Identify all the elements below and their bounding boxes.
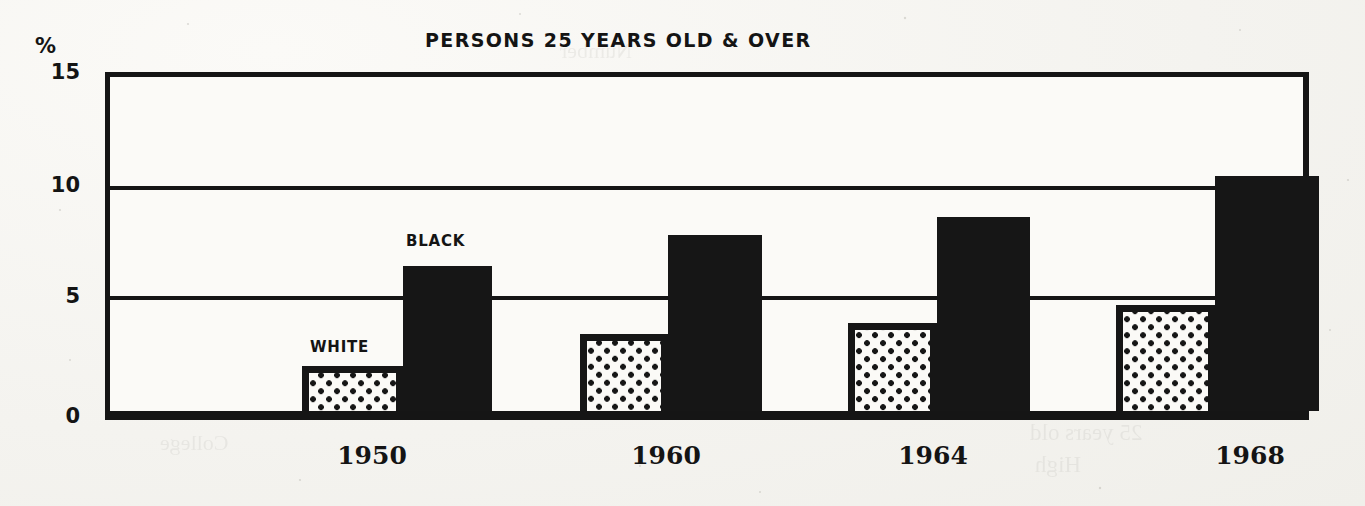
chart-figure: PERSONS 25 YEARS OLD & OVER % 15 10 5 0 …: [0, 0, 1365, 506]
y-tick-10: 10: [18, 173, 80, 197]
bar-black-1964: [937, 217, 1030, 411]
x-tick-1960: 1960: [606, 441, 726, 470]
x-tick-1964: 1964: [873, 441, 993, 470]
x-tick-1950: 1950: [312, 441, 432, 470]
bar-white-1960: [580, 334, 668, 411]
bar-black-1968: [1215, 176, 1319, 411]
bar-white-1950: [302, 366, 403, 411]
series-label-black: BLACK: [406, 232, 465, 250]
y-tick-0: 0: [18, 404, 80, 428]
y-axis-unit-label: %: [35, 34, 56, 58]
gridline-10: [105, 186, 1309, 190]
bar-white-1964: [848, 323, 937, 411]
bar-white-1968: [1116, 305, 1215, 411]
y-tick-15: 15: [18, 60, 80, 84]
x-tick-1968: 1968: [1190, 441, 1310, 470]
chart-title: PERSONS 25 YEARS OLD & OVER: [425, 29, 812, 51]
y-tick-5: 5: [18, 284, 80, 308]
plot-area: [105, 72, 1309, 420]
series-label-white: WHITE: [310, 338, 369, 356]
bar-black-1950: [403, 266, 492, 411]
bar-black-1960: [668, 235, 762, 411]
